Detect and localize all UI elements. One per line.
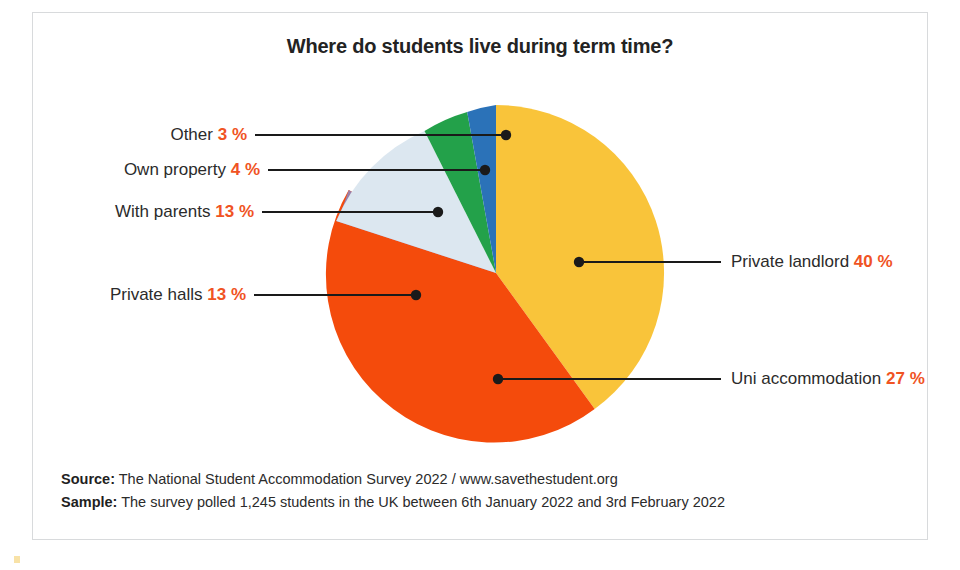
callout-other-name: Other — [170, 125, 213, 144]
source-label: Source: — [61, 471, 115, 487]
callout-private-landlord-value: 40 — [854, 252, 873, 271]
sample-label: Sample: — [61, 494, 117, 510]
callout-other-value: 3 — [218, 125, 227, 144]
pie-chart: Other 3 % Own property 4 % With parents … — [33, 13, 929, 443]
callout-private-halls[interactable]: Private halls 13 % — [110, 286, 246, 303]
pie-slices — [326, 105, 664, 443]
footer-notes: Source: The National Student Accommodati… — [61, 468, 901, 513]
callout-own-property-name: Own property — [124, 160, 226, 179]
callout-other[interactable]: Other 3 % — [170, 126, 247, 143]
sample-line: Sample: The survey polled 1,245 students… — [61, 491, 901, 513]
callout-uni-accommodation-name: Uni accommodation — [731, 369, 881, 388]
callout-private-halls-value: 13 — [207, 285, 226, 304]
leader-dot-private-landlord — [574, 257, 584, 267]
callout-uni-accommodation[interactable]: Uni accommodation 27 % — [731, 370, 925, 387]
callout-private-landlord-unit: % — [878, 252, 893, 271]
leader-dot-private-halls — [411, 290, 421, 300]
source-text: The National Student Accommodation Surve… — [115, 471, 618, 487]
leader-dot-other — [501, 130, 511, 140]
callout-private-landlord[interactable]: Private landlord 40 % — [731, 253, 893, 270]
leader-dot-own-property — [480, 165, 490, 175]
callout-uni-accommodation-unit: % — [910, 369, 925, 388]
callout-own-property-value: 4 — [231, 160, 240, 179]
callout-private-halls-unit: % — [231, 285, 246, 304]
sample-text: The survey polled 1,245 students in the … — [117, 494, 725, 510]
callout-private-halls-name: Private halls — [110, 285, 203, 304]
callout-with-parents-value: 13 — [215, 202, 234, 221]
callout-with-parents-name: With parents — [115, 202, 210, 221]
callout-own-property-unit: % — [245, 160, 260, 179]
callout-private-landlord-name: Private landlord — [731, 252, 849, 271]
scan-artifact-mark — [14, 556, 20, 563]
callout-uni-accommodation-value: 27 — [886, 369, 905, 388]
leader-dot-uni-accommodation — [493, 374, 503, 384]
leader-dot-with-parents — [433, 207, 443, 217]
callout-with-parents[interactable]: With parents 13 % — [115, 203, 254, 220]
callout-other-unit: % — [232, 125, 247, 144]
infographic-card: Where do students live during term time? — [32, 12, 928, 540]
callout-own-property[interactable]: Own property 4 % — [124, 161, 260, 178]
callout-with-parents-unit: % — [239, 202, 254, 221]
source-line: Source: The National Student Accommodati… — [61, 468, 901, 490]
